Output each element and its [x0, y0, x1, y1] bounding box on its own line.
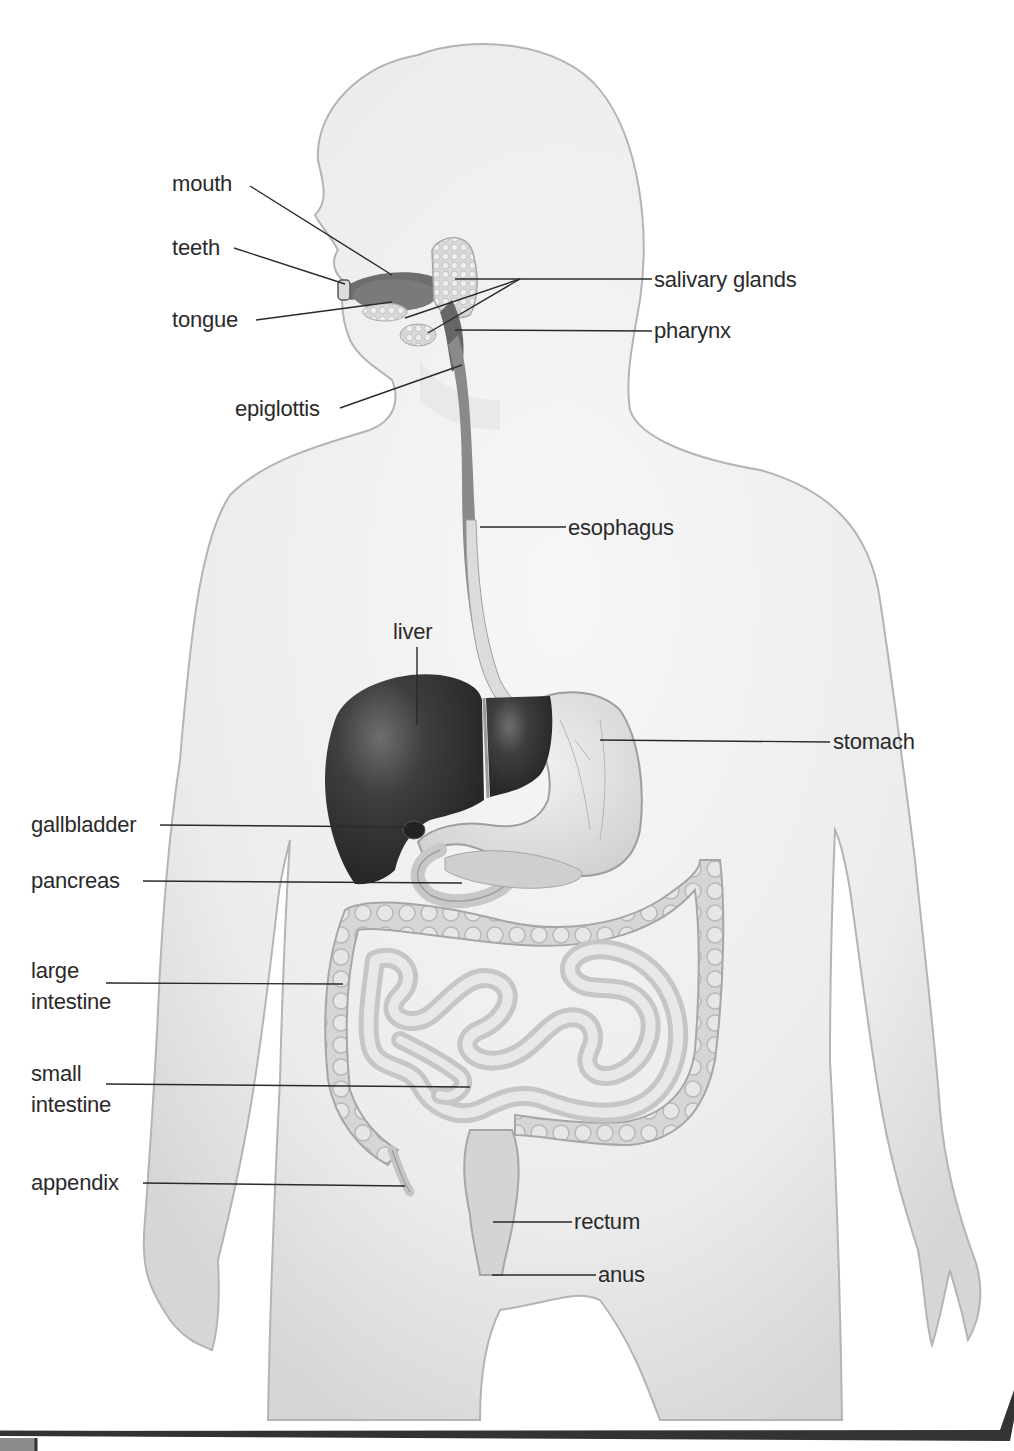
- label-gallbladder: gallbladder: [31, 812, 136, 838]
- label-liver: liver: [393, 619, 432, 645]
- label-stomach: stomach: [833, 729, 915, 755]
- digestive-system-diagram: mouth teeth tongue epiglottis salivary g…: [0, 0, 1014, 1451]
- label-tongue: tongue: [172, 307, 238, 333]
- label-epiglottis: epiglottis: [235, 396, 320, 422]
- label-appendix: appendix: [31, 1170, 119, 1196]
- label-salivary-glands: salivary glands: [654, 267, 797, 293]
- label-esophagus: esophagus: [568, 515, 674, 541]
- label-rectum: rectum: [574, 1209, 640, 1235]
- label-anus: anus: [598, 1262, 645, 1288]
- label-small-intestine: small intestine: [31, 1058, 111, 1120]
- anatomy-illustration: [0, 0, 1014, 1451]
- label-pharynx: pharynx: [654, 318, 731, 344]
- page-frame: [0, 1390, 1014, 1451]
- label-mouth: mouth: [172, 171, 232, 197]
- label-large-intestine: large intestine: [31, 955, 111, 1017]
- gallbladder: [403, 821, 425, 839]
- label-pancreas: pancreas: [31, 868, 120, 894]
- label-teeth: teeth: [172, 235, 220, 261]
